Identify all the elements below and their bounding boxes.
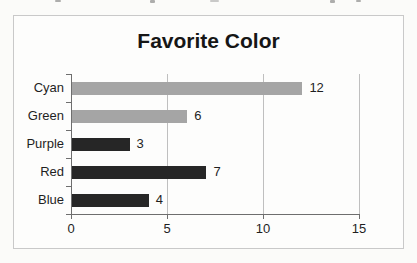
data-label-green: 6 — [194, 109, 201, 123]
gridline-x-15 — [359, 74, 360, 214]
data-label-cyan: 12 — [309, 81, 323, 95]
chart-frame: Favorite Color 051015Cyan12Green6Purple3… — [13, 15, 404, 249]
x-tick-label-15: 15 — [344, 221, 374, 236]
y-axis-tick-2 — [66, 130, 71, 131]
category-label-blue: Blue — [14, 192, 64, 208]
y-axis-tick-0 — [66, 74, 71, 75]
data-label-blue: 4 — [156, 193, 163, 207]
cropped-text-artifact — [0, 0, 417, 4]
y-axis-tick-4 — [66, 186, 71, 187]
gridline-x-5 — [167, 74, 168, 214]
category-label-red: Red — [14, 164, 64, 180]
x-tick-label-0: 0 — [56, 221, 86, 236]
data-label-red: 7 — [213, 165, 220, 179]
x-axis-line — [71, 214, 360, 215]
x-tick-label-10: 10 — [248, 221, 278, 236]
y-axis-tick-3 — [66, 158, 71, 159]
gridline-x-10 — [263, 74, 264, 214]
category-label-purple: Purple — [14, 136, 64, 152]
scanned-page: Favorite Color 051015Cyan12Green6Purple3… — [0, 0, 417, 263]
bar-cyan — [72, 82, 302, 95]
x-tick-label-5: 5 — [152, 221, 182, 236]
ink-smudge — [55, 0, 61, 2]
ink-smudge — [330, 0, 335, 3]
y-axis-tick-5 — [66, 214, 71, 215]
bar-purple — [72, 138, 130, 151]
ink-smudge — [150, 0, 155, 3]
bar-blue — [72, 194, 149, 207]
ink-smudge — [356, 0, 361, 2]
category-label-cyan: Cyan — [14, 80, 64, 96]
plot-area: 051015Cyan12Green6Purple3Red7Blue4 — [14, 16, 403, 248]
data-label-purple: 3 — [137, 137, 144, 151]
bar-red — [72, 166, 206, 179]
ink-smudge — [210, 0, 219, 2]
y-axis-tick-1 — [66, 102, 71, 103]
bar-green — [72, 110, 187, 123]
category-label-green: Green — [14, 108, 64, 124]
